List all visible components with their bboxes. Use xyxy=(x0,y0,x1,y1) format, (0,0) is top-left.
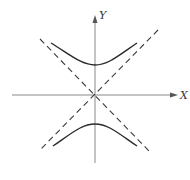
asymptotes xyxy=(39,30,158,152)
upper-branch xyxy=(51,43,137,65)
y-axis-label: Y xyxy=(99,9,108,22)
y-axis-arrow-icon xyxy=(93,15,98,23)
hyperbola-diagram: X Y xyxy=(0,0,190,180)
asymptote-positive-slope xyxy=(39,30,158,151)
x-axis-label: X xyxy=(179,89,189,102)
axes: X Y xyxy=(12,9,189,163)
x-axis-arrow-icon xyxy=(170,93,178,98)
